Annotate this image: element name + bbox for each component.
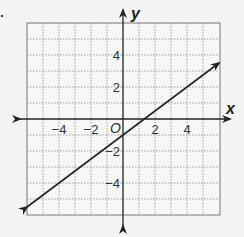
y-tick-label: −4 [105,176,120,191]
x-tick-label: 2 [151,122,158,137]
origin-label: O [110,120,121,136]
x-tick-label: 4 [183,122,190,137]
coordinate-plane: −4−22442−2−4 x y O [0,0,244,237]
x-tick-label: −4 [52,122,67,137]
x-tick-label: −2 [84,122,99,137]
y-axis-label: y [130,5,141,22]
y-tick-label: 2 [113,80,120,95]
y-tick-label: 4 [113,48,120,63]
x-axis-label: x [225,100,236,117]
